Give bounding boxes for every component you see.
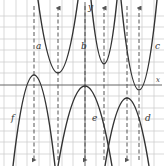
x-axis-label: x	[156, 76, 160, 84]
label-b: b	[81, 41, 87, 51]
parabola-diagram: y x a b c d e f	[0, 0, 164, 166]
label-a: a	[36, 41, 41, 51]
label-f: f	[10, 113, 16, 123]
graph-canvas: y x a b c d e f	[0, 0, 164, 166]
grid	[0, 0, 164, 166]
label-e: e	[92, 113, 97, 123]
label-d: d	[145, 113, 151, 123]
label-c: c	[155, 41, 160, 51]
y-axis-label: y	[87, 2, 94, 12]
